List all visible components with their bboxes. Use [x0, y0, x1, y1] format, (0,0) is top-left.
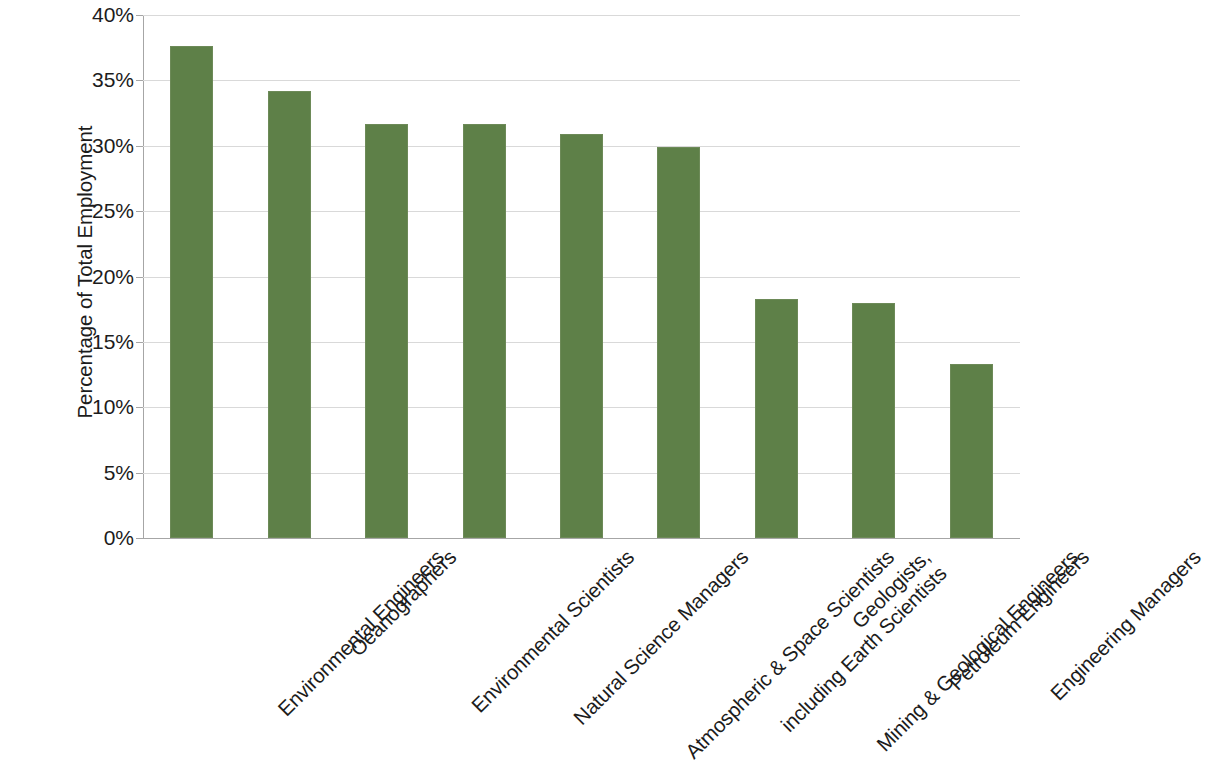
bar [852, 303, 895, 538]
y-axis-tick [136, 15, 143, 16]
x-axis-category-label: Atmospheric & Space Scientists [681, 546, 898, 763]
y-axis-tick-label: 40% [14, 4, 134, 25]
bar [755, 299, 798, 538]
bar [657, 147, 700, 538]
x-axis-category-label: Petroleum Engineers [945, 546, 1094, 695]
x-axis-category-label: Environmental Scientists [467, 546, 639, 718]
x-axis-category-label: Oeanographers [346, 546, 461, 661]
x-axis-category-label: Natural Science Managers [569, 546, 753, 730]
bar [268, 91, 311, 538]
bar [463, 124, 506, 538]
bar [365, 124, 408, 538]
y-axis-tick-label: 5% [14, 462, 134, 483]
y-axis-tick-label: 0% [14, 527, 134, 548]
x-axis-category-label: Geologists, including Earth Scientists [760, 546, 951, 737]
y-axis-tick [136, 80, 143, 81]
y-axis-tick-label: 10% [14, 396, 134, 417]
y-axis-tick [136, 407, 143, 408]
y-axis-tick-label: 35% [14, 69, 134, 90]
y-axis-tick-label: 15% [14, 331, 134, 352]
x-axis-category-label: Engineering Managers [1047, 546, 1206, 705]
gridline [143, 15, 1020, 16]
y-axis-tick [136, 277, 143, 278]
x-axis-category-label: Environmental Engineers [273, 546, 448, 721]
y-axis-tick [136, 342, 143, 343]
y-axis-tick-label: 20% [14, 266, 134, 287]
x-axis-category-label: Mining & Geological Engineers [873, 546, 1083, 756]
bar [950, 364, 993, 538]
y-axis-tick-label: 30% [14, 135, 134, 156]
gridline [143, 80, 1020, 81]
bar [170, 46, 213, 538]
gridline [143, 538, 1020, 539]
y-axis-tick [136, 211, 143, 212]
y-axis-tick-label: 25% [14, 200, 134, 221]
bar [560, 134, 603, 538]
y-axis-tick [136, 146, 143, 147]
y-axis-tick [136, 473, 143, 474]
y-axis-tick [136, 538, 143, 539]
plot-area [143, 15, 1020, 538]
